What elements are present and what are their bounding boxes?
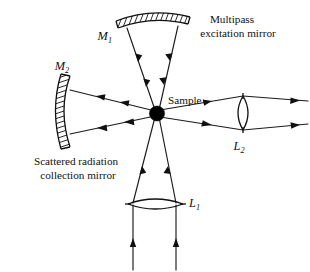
caption-scattered-line2: collection mirror bbox=[40, 169, 116, 181]
multipass-ray-left bbox=[127, 28, 155, 110]
label-m2: M2 bbox=[54, 59, 69, 75]
scattered-ray-upper-left bbox=[70, 90, 155, 111]
mirror-m2-reflective-surface bbox=[64, 76, 70, 147]
arrow-scattered-upper-b bbox=[120, 100, 130, 106]
arrow-output-lower bbox=[291, 122, 301, 129]
converging-ray-left bbox=[133, 117, 155, 203]
caption-scattered-line1: Scattered radiation bbox=[34, 155, 119, 167]
mirror-m1-edge-left bbox=[116, 21, 118, 28]
converging-ray-right bbox=[159, 117, 176, 203]
arrow-scattered-upper-a bbox=[96, 94, 106, 100]
caption-multipass-line1: Multipass bbox=[210, 13, 254, 25]
mirror-m1-hatching bbox=[107, 4, 197, 30]
arrow-multipass-left-upper bbox=[135, 54, 142, 63]
arrow-scattered-lower-b bbox=[124, 119, 134, 126]
arrow-input-left bbox=[130, 238, 136, 247]
arrow-output-upper bbox=[290, 97, 300, 104]
arrow-collect-upper bbox=[203, 99, 212, 105]
ray-group-incoming-cone bbox=[133, 117, 176, 203]
arrow-scattered-lower-a bbox=[97, 125, 107, 132]
lens-l2-right-surface bbox=[243, 96, 248, 130]
arrow-input-right bbox=[173, 238, 179, 247]
mirror-m2-edge-bottom bbox=[61, 147, 70, 149]
mirror-m1-group[interactable] bbox=[107, 4, 197, 30]
label-l1: L1 bbox=[188, 196, 200, 212]
optical-diagram-figure: M1 M2 L1 L2 Sample Multipass excitation … bbox=[0, 0, 310, 272]
scattered-ray-lower-left bbox=[70, 116, 155, 134]
label-m1: M1 bbox=[97, 29, 112, 45]
arrow-collect-lower bbox=[201, 120, 212, 126]
ray-group-output bbox=[243, 96, 308, 130]
ray-group-input-beam bbox=[130, 205, 179, 270]
mirror-m2-hatching bbox=[46, 67, 76, 157]
label-sample: Sample bbox=[168, 94, 202, 106]
arrow-converge-left bbox=[139, 166, 146, 175]
lens-l1-lower-surface bbox=[128, 204, 183, 209]
arrow-multipass-left-lower bbox=[143, 79, 150, 88]
mirror-m2-back-edge bbox=[56, 74, 62, 149]
lens-l2-group[interactable] bbox=[238, 93, 248, 133]
lens-l2-left-surface bbox=[238, 96, 243, 130]
sample-dot[interactable] bbox=[149, 106, 164, 121]
ray-group-scattered-left bbox=[70, 90, 155, 134]
mirror-m1-edge-right bbox=[188, 17, 190, 24]
lens-l1-upper-surface bbox=[128, 199, 183, 204]
optics-schematic-canvas: M1 M2 L1 L2 Sample Multipass excitation … bbox=[0, 0, 310, 272]
label-l2: L2 bbox=[233, 139, 245, 155]
mirror-m2-group[interactable] bbox=[46, 67, 76, 157]
caption-multipass-line2: excitation mirror bbox=[200, 27, 276, 39]
collected-ray-lower-right bbox=[160, 117, 243, 130]
